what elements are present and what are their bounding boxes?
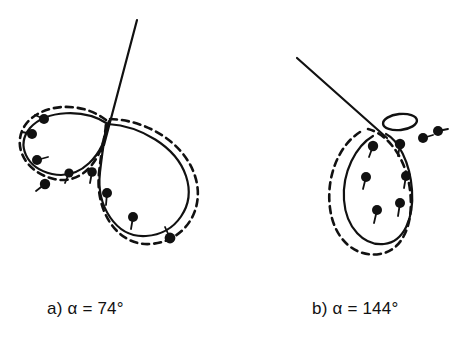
figure-container: a) α = 74° b) α = 144°: [0, 0, 453, 348]
scientific-figure-canvas: [0, 0, 453, 348]
panel-a-caption: a) α = 74°: [47, 299, 124, 319]
panel-b-caption: b) α = 144°: [312, 299, 398, 319]
